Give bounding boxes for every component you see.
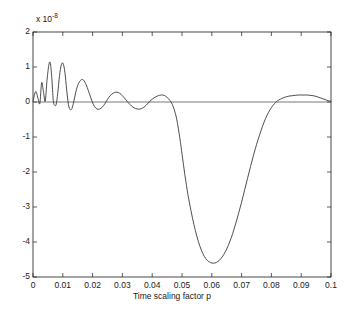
x-tick-label-text: 0.04 [144,280,161,290]
x-axis-title: Time scaling factor p [0,291,344,301]
y-axis-exponent-label: x 10-8 [36,12,58,24]
y-tick-label-text: -5 [22,271,30,281]
y-tick-label-text: 2 [25,26,30,36]
x-tick-label-text: 0.09 [293,280,310,290]
x-tick-label-text: 0 [31,280,36,290]
plot-area [0,0,344,315]
chart-page: x 10-8 210-1-2-3-4-5 00.010.020.030.040.… [0,0,344,315]
x-tick-label-text: 0.05 [174,280,191,290]
y-tick-label-text: -2 [22,166,30,176]
x-tick-label-text: 0.06 [204,280,221,290]
y-tick-label-text: -3 [22,201,30,211]
x-tick-label-text: 0.07 [233,280,250,290]
y-tick-label-text: 1 [25,61,30,71]
matlab-figure: x 10-8 210-1-2-3-4-5 00.010.020.030.040.… [0,0,344,315]
y-tick-label-text: -1 [22,131,30,141]
y-tick-label-text: 0 [25,96,30,106]
x-tick-label-text: 0.1 [325,280,337,290]
x-tick-label-text: 0.01 [55,280,72,290]
x-tick-label-text: 0.03 [114,280,131,290]
y-axis-exponent-value: -8 [52,12,58,19]
y-tick-label-text: -4 [22,236,30,246]
x-tick-label-text: 0.08 [263,280,280,290]
x-tick-label-text: 0.02 [84,280,101,290]
y-axis-exponent-prefix: x 10 [36,14,52,24]
